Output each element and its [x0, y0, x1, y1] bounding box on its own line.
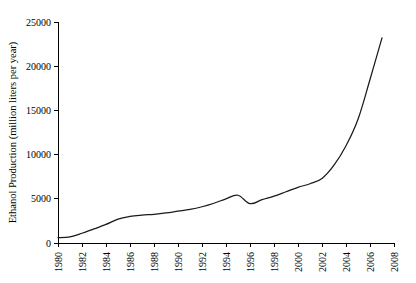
- x-tick-label: 2002: [317, 252, 328, 272]
- x-tick-label: 1992: [197, 252, 208, 272]
- y-tick-label: 5000: [31, 193, 51, 204]
- y-tick-label: 20000: [26, 61, 51, 72]
- x-tick-label: 1986: [125, 252, 136, 272]
- y-tick-label: 25000: [26, 17, 51, 28]
- x-tick-label: 1998: [269, 252, 280, 272]
- data-series-line: [58, 38, 382, 238]
- y-axis-ticks: [54, 22, 58, 243]
- y-tick-label: 15000: [26, 105, 51, 116]
- x-tick-label: 1984: [101, 252, 112, 272]
- x-tick-label: 1994: [221, 252, 232, 272]
- ethanol-production-line-chart: 0500010000150002000025000 19801982198419…: [0, 0, 416, 283]
- y-tick-label: 10000: [26, 149, 51, 160]
- x-tick-label: 1982: [77, 252, 88, 272]
- x-tick-label: 2008: [389, 252, 400, 272]
- y-axis-tick-labels: 0500010000150002000025000: [26, 17, 51, 249]
- x-tick-label: 1990: [173, 252, 184, 272]
- y-tick-label: 0: [46, 238, 51, 249]
- plot-area: 0500010000150002000025000 19801982198419…: [26, 17, 400, 273]
- chart-canvas: 0500010000150002000025000 19801982198419…: [0, 0, 416, 283]
- y-axis-title: Ethanol Production (million liters per y…: [7, 41, 19, 223]
- x-tick-label: 1988: [149, 252, 160, 272]
- x-tick-label: 1996: [245, 252, 256, 272]
- x-tick-label: 1980: [53, 252, 64, 272]
- x-tick-label: 2000: [293, 252, 304, 272]
- x-axis-ticks: [58, 243, 394, 247]
- x-tick-label: 2006: [365, 252, 376, 272]
- x-tick-label: 2004: [341, 252, 352, 272]
- x-axis-tick-labels: 1980198219841986198819901992199419961998…: [53, 252, 400, 272]
